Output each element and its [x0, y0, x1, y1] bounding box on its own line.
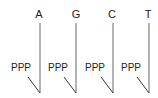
nucleotide-c: C PPP: [85, 8, 116, 93]
triphosphate-label-c: PPP: [85, 62, 105, 73]
base-label-c: C: [108, 8, 116, 20]
phosphate-link-a: [28, 77, 40, 93]
triphosphate-label-g: PPP: [48, 62, 68, 73]
base-label-t: T: [145, 8, 152, 20]
base-label-a: A: [35, 8, 43, 20]
phosphate-link-c: [101, 77, 113, 93]
nucleotide-g: G PPP: [48, 8, 80, 93]
triphosphate-label-a: PPP: [11, 62, 31, 73]
nucleotide-diagram: A PPP G PPP C PPP T PPP: [0, 0, 158, 98]
triphosphate-label-t: PPP: [121, 62, 141, 73]
nucleotide-t: T PPP: [121, 8, 152, 93]
phosphate-link-t: [137, 77, 149, 93]
base-label-g: G: [72, 8, 81, 20]
phosphate-link-g: [64, 77, 76, 93]
nucleotide-a: A PPP: [11, 8, 43, 93]
